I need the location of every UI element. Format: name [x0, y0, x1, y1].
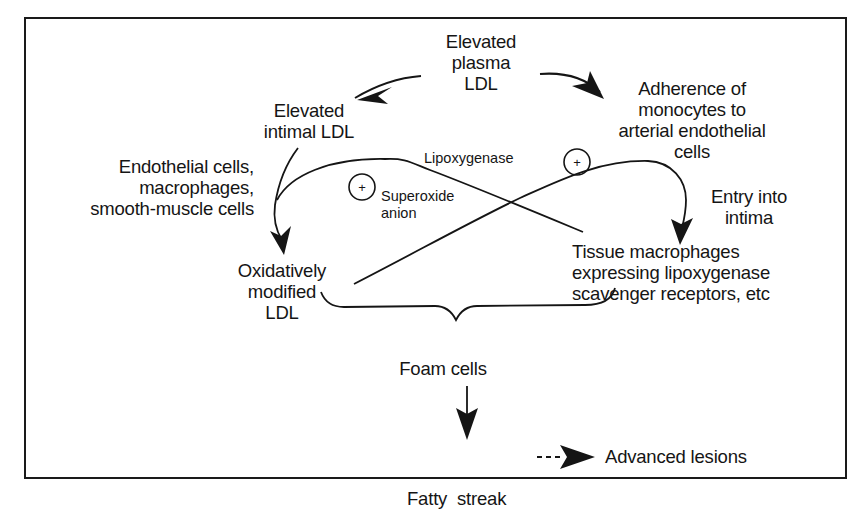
node-cell-types: Endothelial cells, macrophages, smooth-m… [40, 156, 254, 219]
lipoxygenase-plus-sign: + [573, 155, 581, 170]
arrow-plasma-to-intimal [355, 76, 421, 98]
modifier-label: Superoxide [381, 188, 454, 205]
node-line: scavenger receptors, etc [572, 283, 822, 304]
arrowhead-fatty-to-advanced [560, 445, 595, 469]
superoxide-plus-sign: + [358, 180, 366, 195]
node-line: modified [218, 281, 346, 302]
node-advanced-lesions: Advanced lesions [605, 446, 795, 467]
node-line: arterial endothelial [594, 120, 790, 141]
node-line: cells [594, 141, 790, 162]
node-label: Advanced lesions [605, 446, 795, 467]
node-label: Fatty streak [407, 488, 537, 509]
node-line: intimal LDL [244, 121, 374, 142]
node-line: Adherence of [594, 78, 790, 99]
node-oxidatively-modified-ldl: Oxidatively modified LDL [218, 260, 346, 323]
arrowhead-intimal-to-oxidized [270, 226, 291, 255]
node-line: Elevated [244, 100, 374, 121]
node-line: monocytes to [594, 99, 790, 120]
node-line: smooth-muscle cells [40, 198, 254, 219]
node-line: macrophages, [40, 177, 254, 198]
node-line: expressing lipoxygenase [572, 262, 822, 283]
modifier-label: anion [381, 205, 454, 222]
arrow-intimal-to-oxidized [274, 148, 298, 240]
node-label: Foam cells [378, 358, 508, 379]
node-tissue-macrophages: Tissue macrophages expressing lipoxygena… [572, 241, 822, 304]
node-entry-into-intima: Entry into intima [696, 186, 802, 228]
node-adherence-of-monocytes: Adherence of monocytes to arterial endot… [594, 78, 790, 162]
node-line: Entry into [696, 186, 802, 207]
node-line: plasma [420, 52, 542, 73]
node-line: Tissue macrophages [572, 241, 822, 262]
modifier-superoxide-anion: Superoxide anion [381, 188, 454, 222]
node-line: LDL [420, 73, 542, 94]
node-line: Endothelial cells, [40, 156, 254, 177]
node-line: LDL [218, 302, 346, 323]
node-fatty-streak: Fatty streak [407, 446, 537, 513]
node-line: intima [696, 207, 802, 228]
node-elevated-plasma-ldl: Elevated plasma LDL [420, 31, 542, 94]
foam-cells-brace [321, 288, 615, 320]
node-line: Oxidatively [218, 260, 346, 281]
node-foam-cells: Foam cells [378, 358, 508, 379]
node-line: Elevated [420, 31, 542, 52]
modifier-lipoxygenase: Lipoxygenase [424, 150, 514, 167]
node-elevated-intimal-ldl: Elevated intimal LDL [244, 100, 374, 142]
modifier-label: Lipoxygenase [424, 150, 514, 166]
